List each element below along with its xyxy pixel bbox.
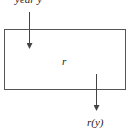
diagram-canvas: year y r r(y)	[0, 0, 128, 129]
box-label: r	[62, 55, 67, 67]
output-label: r(y)	[87, 116, 104, 129]
input-label: year y	[14, 0, 42, 5]
